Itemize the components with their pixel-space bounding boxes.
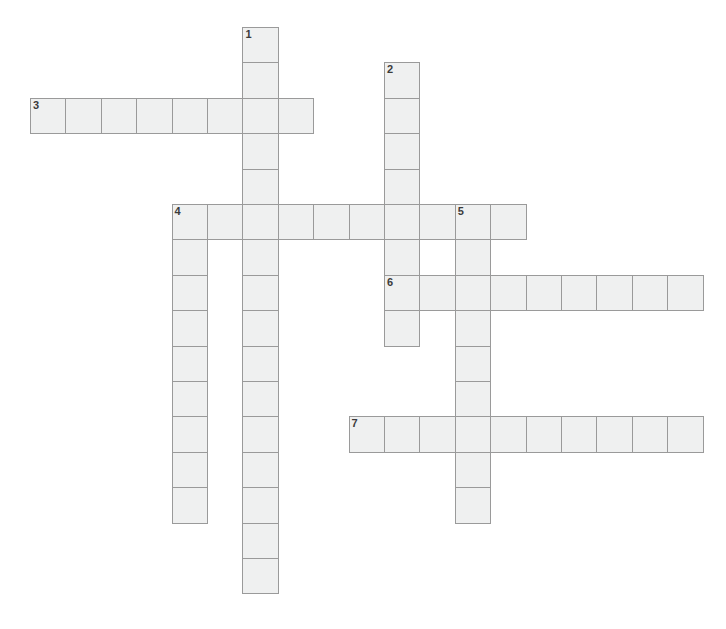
crossword-cell[interactable] [242,62,278,98]
cell-number-3: 3 [33,99,39,112]
crossword-cell[interactable] [242,416,278,452]
crossword-cell[interactable]: 1 [242,27,278,63]
crossword-cell[interactable] [172,346,208,382]
crossword-cell[interactable] [242,310,278,346]
crossword-cell[interactable] [490,204,526,240]
crossword-cell[interactable] [455,487,491,523]
cell-number-7: 7 [352,417,358,430]
crossword-cell[interactable] [172,381,208,417]
crossword-cell[interactable] [455,239,491,275]
crossword-cell[interactable]: 7 [349,416,385,452]
crossword-cell[interactable] [242,275,278,311]
crossword-cell[interactable] [419,275,455,311]
crossword-cell[interactable] [172,239,208,275]
crossword-cell[interactable] [419,416,455,452]
crossword-cell[interactable] [384,204,420,240]
crossword-cell[interactable] [596,416,632,452]
crossword-cell[interactable] [242,169,278,205]
crossword-cell[interactable] [490,416,526,452]
crossword-cell[interactable] [65,98,101,134]
crossword-cell[interactable] [384,133,420,169]
crossword-cell[interactable] [419,204,455,240]
crossword-cell[interactable] [278,98,314,134]
crossword-cell[interactable] [278,204,314,240]
crossword-cell[interactable] [455,381,491,417]
crossword-cell[interactable] [313,204,349,240]
crossword-cell[interactable] [207,98,243,134]
crossword-cell[interactable] [101,98,137,134]
crossword-cell[interactable] [172,487,208,523]
crossword-cell[interactable]: 6 [384,275,420,311]
crossword-cell[interactable]: 5 [455,204,491,240]
crossword-cell[interactable] [242,523,278,559]
crossword-cell[interactable] [455,346,491,382]
crossword-cell[interactable] [242,133,278,169]
crossword-cell[interactable] [455,452,491,488]
crossword-cell[interactable] [242,239,278,275]
crossword-cell[interactable] [136,98,172,134]
crossword-cell[interactable]: 3 [30,98,66,134]
crossword-cell[interactable] [172,275,208,311]
crossword-cell[interactable] [172,452,208,488]
crossword-grid[interactable]: 1234567 [0,0,726,629]
crossword-cell[interactable]: 4 [172,204,208,240]
crossword-cell[interactable] [242,487,278,523]
cell-number-6: 6 [387,276,393,289]
crossword-cell[interactable] [242,204,278,240]
crossword-cell[interactable] [242,98,278,134]
cell-number-4: 4 [175,205,181,218]
crossword-cell[interactable] [384,98,420,134]
crossword-cell[interactable] [384,169,420,205]
crossword-cell[interactable] [632,275,668,311]
crossword-cell[interactable] [384,416,420,452]
crossword-cell[interactable] [561,275,597,311]
crossword-cell[interactable] [667,275,703,311]
crossword-cell[interactable] [172,98,208,134]
crossword-puzzle: 1234567 [0,0,726,629]
cell-number-1: 1 [245,28,251,41]
crossword-cell[interactable] [349,204,385,240]
crossword-cell[interactable] [172,310,208,346]
crossword-cell[interactable] [561,416,597,452]
crossword-cell[interactable] [242,381,278,417]
crossword-cell[interactable] [455,310,491,346]
crossword-cell[interactable] [242,346,278,382]
crossword-cell[interactable] [526,275,562,311]
crossword-cell[interactable] [455,416,491,452]
crossword-cell[interactable] [526,416,562,452]
crossword-cell[interactable] [242,452,278,488]
crossword-cell[interactable]: 2 [384,62,420,98]
crossword-cell[interactable] [632,416,668,452]
cell-number-2: 2 [387,63,393,76]
crossword-cell[interactable] [207,204,243,240]
cell-number-5: 5 [458,205,464,218]
crossword-cell[interactable] [667,416,703,452]
crossword-cell[interactable] [172,416,208,452]
crossword-cell[interactable] [490,275,526,311]
crossword-cell[interactable] [384,310,420,346]
crossword-cell[interactable] [596,275,632,311]
crossword-cell[interactable] [455,275,491,311]
crossword-cell[interactable] [242,558,278,594]
crossword-cell[interactable] [384,239,420,275]
